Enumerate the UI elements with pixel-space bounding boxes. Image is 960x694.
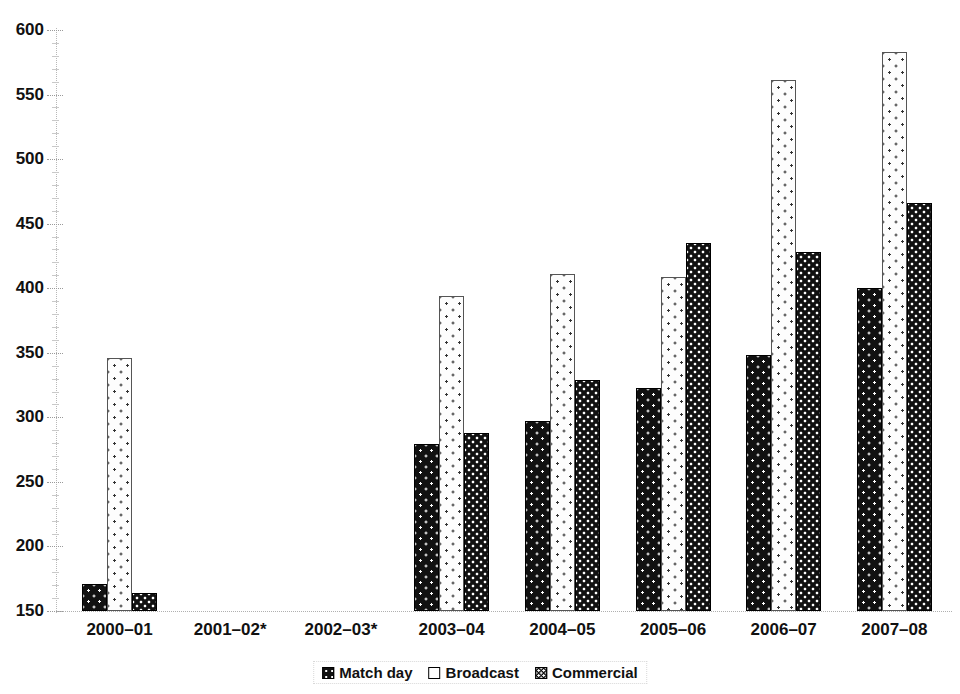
y-minor-tick [52,56,59,57]
legend-item-commercial: Commercial [535,664,638,681]
y-axis-line [56,28,57,613]
legend-item-broadcast: Broadcast [429,664,519,681]
y-minor-tick [52,327,59,328]
y-minor-tick [52,314,59,315]
bar-broadcast-5 [661,277,686,611]
y-tick-label: 200 [0,537,44,554]
y-minor-tick [52,559,59,560]
y-minor-tick [52,172,59,173]
y-tick-label: 350 [0,344,44,361]
y-minor-tick [52,198,59,199]
y-minor-tick [52,521,59,522]
x-tick-label: 2007–08 [819,620,960,640]
y-tick-mark [47,611,63,612]
legend-label-match-day: Match day [339,664,412,681]
y-tick-label: 300 [0,408,44,425]
matchday-swatch-icon [322,667,334,679]
y-minor-tick [52,340,59,341]
y-minor-tick [52,146,59,147]
y-tick-mark [47,159,63,160]
bar-commercial-7 [907,203,932,611]
y-tick-label: 400 [0,279,44,296]
y-minor-tick [52,133,59,134]
bar-matchday-0 [82,584,107,611]
bar-broadcast-6 [771,80,796,611]
y-minor-tick [52,443,59,444]
bar-matchday-3 [414,444,439,611]
y-minor-tick [52,120,59,121]
y-tick-label: 550 [0,86,44,103]
y-minor-tick [52,572,59,573]
y-minor-tick [52,598,59,599]
bar-broadcast-3 [439,296,464,611]
y-minor-tick [52,585,59,586]
y-minor-tick [52,508,59,509]
bar-commercial-5 [686,243,711,611]
y-minor-tick [52,249,59,250]
bar-commercial-3 [464,433,489,611]
y-tick-mark [47,546,63,547]
commercial-swatch-icon [535,667,547,679]
y-minor-tick [52,495,59,496]
y-tick-label: 250 [0,473,44,490]
x-axis-baseline [56,611,952,612]
y-minor-tick [52,107,59,108]
y-tick-mark [47,95,63,96]
y-minor-tick [52,237,59,238]
bar-matchday-5 [636,388,661,611]
y-minor-tick [52,275,59,276]
bar-matchday-4 [525,421,550,611]
bar-broadcast-0 [107,358,132,611]
y-minor-tick [52,69,59,70]
y-minor-tick [52,43,59,44]
y-minor-tick [52,185,59,186]
y-tick-mark [47,482,63,483]
y-tick-mark [47,417,63,418]
broadcast-swatch-icon [429,667,441,679]
legend-label-broadcast: Broadcast [446,664,519,681]
y-minor-tick [52,456,59,457]
y-minor-tick [52,392,59,393]
bar-commercial-4 [575,380,600,611]
y-tick-mark [47,353,63,354]
y-minor-tick [52,262,59,263]
y-minor-tick [52,469,59,470]
bar-chart: 150200250300350400450500550600 2000–0120… [0,0,960,694]
y-tick-label: 450 [0,215,44,232]
bar-broadcast-7 [882,52,907,611]
y-minor-tick [52,404,59,405]
y-tick-mark [47,288,63,289]
y-tick-label: 500 [0,150,44,167]
y-minor-tick [52,301,59,302]
y-minor-tick [52,379,59,380]
y-minor-tick [52,534,59,535]
y-minor-tick [52,430,59,431]
bar-broadcast-4 [550,274,575,611]
y-tick-label: 600 [0,21,44,38]
bar-matchday-6 [746,355,771,611]
y-minor-tick [52,366,59,367]
legend-label-commercial: Commercial [552,664,638,681]
bar-commercial-6 [796,252,821,611]
y-minor-tick [52,82,59,83]
y-minor-tick [52,211,59,212]
bar-commercial-0 [132,593,157,611]
bar-matchday-7 [857,288,882,611]
chart-legend: Match day Broadcast Commercial [313,661,647,684]
y-tick-mark [47,224,63,225]
y-tick-label: 150 [0,602,44,619]
legend-item-match-day: Match day [322,664,412,681]
y-tick-mark [47,30,63,31]
